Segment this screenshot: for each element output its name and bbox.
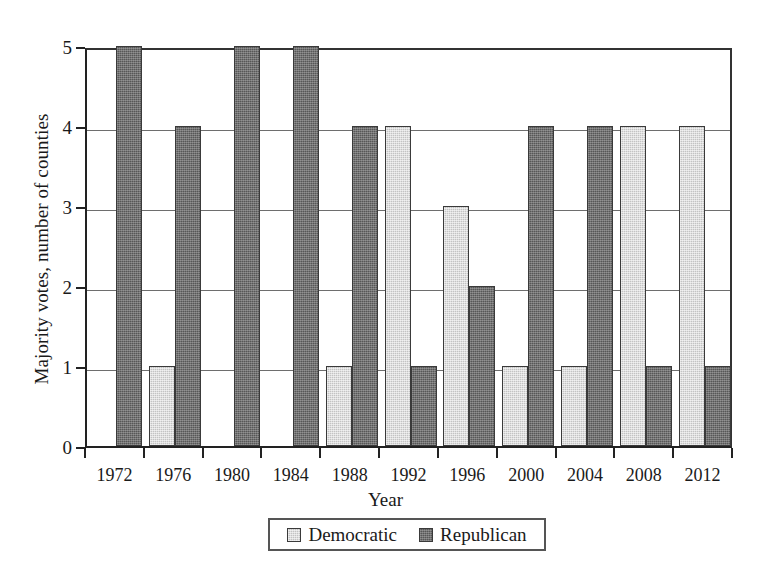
y-axis-tick [76,287,85,289]
bar-democratic-1988 [326,366,352,446]
x-axis-tick [672,448,674,458]
bar-group [679,50,731,446]
bar-democratic-2008 [620,126,646,446]
x-axis-tick [143,448,145,458]
bar-democratic-1976 [149,366,175,446]
bar-chart-figure: Majority votes, number of counties 01234… [0,0,771,580]
bar-group [267,50,319,446]
x-axis-tick [496,448,498,458]
x-axis-tick [319,448,321,458]
legend-swatch-republican-icon [419,528,433,542]
x-axis-tick [613,448,615,458]
bars-layer [87,50,730,446]
bar-group [443,50,495,446]
x-axis-tick [555,448,557,458]
legend-label-republican: Republican [440,524,527,546]
bar-republican-1984 [293,46,319,446]
legend-entry-democratic: Democratic [287,524,397,546]
bar-group [208,50,260,446]
bar-democratic-1992 [385,126,411,446]
x-axis-tick [731,448,733,458]
legend-label-democratic: Democratic [308,524,397,546]
bar-republican-2004 [587,126,613,446]
plot-area [85,48,732,448]
bar-republican-1980 [234,46,260,446]
bar-group [561,50,613,446]
y-axis-tick-label: 4 [48,118,72,137]
bar-republican-1972 [116,46,142,446]
y-axis-tick-label: 5 [48,38,72,57]
x-axis-title: Year [0,489,771,511]
bar-group [620,50,672,446]
bar-republican-2008 [646,366,672,446]
bar-democratic-1996 [443,206,469,446]
bar-republican-1976 [175,126,201,446]
bar-republican-1988 [352,126,378,446]
bar-democratic-2012 [679,126,705,446]
y-axis-title: Majority votes, number of counties [31,39,53,459]
bar-republican-2000 [528,126,554,446]
bar-group [90,50,142,446]
y-axis-tick [76,367,85,369]
bar-group [385,50,437,446]
legend-swatch-democratic-icon [287,528,301,542]
bar-group [502,50,554,446]
y-axis-tick-label: 1 [48,358,72,377]
bar-republican-2012 [705,366,731,446]
y-axis-tick [76,47,85,49]
x-axis-tick [202,448,204,458]
bar-democratic-2004 [561,366,587,446]
y-axis-tick-label: 3 [48,198,72,217]
bar-republican-1992 [411,366,437,446]
y-axis-tick [76,207,85,209]
bar-republican-1996 [469,286,495,446]
x-axis-tick [84,448,86,458]
chart-legend: Democratic Republican [268,518,546,551]
x-axis-tick [378,448,380,458]
x-axis-tick [260,448,262,458]
y-axis-tick [76,127,85,129]
legend-entry-republican: Republican [419,524,527,546]
x-axis-tick [437,448,439,458]
x-axis-tick-label: 2012 [668,465,738,487]
y-axis-tick-label: 0 [48,438,72,457]
bar-democratic-2000 [502,366,528,446]
bar-group [326,50,378,446]
bar-group [149,50,201,446]
y-axis-tick-label: 2 [48,278,72,297]
